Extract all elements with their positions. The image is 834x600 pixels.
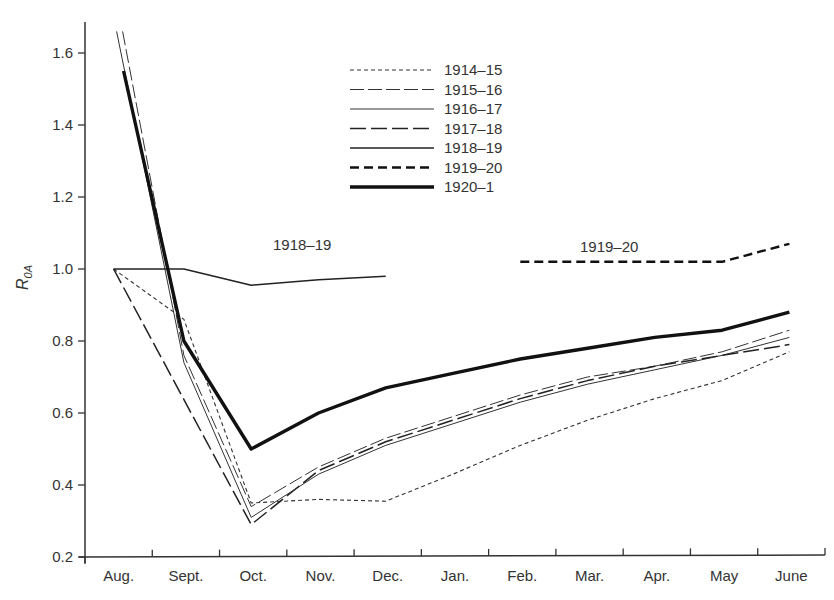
legend-label: 1920–1 [444, 178, 494, 195]
x-axis-line [79, 555, 825, 557]
y-tick-label: 1.0 [52, 260, 73, 277]
legend: 1914–151915–161916–171917–181918–191919–… [350, 61, 502, 195]
x-tick-label: Oct. [239, 567, 267, 584]
series-line-191718 [114, 269, 790, 525]
annotation-191920: 1919–20 [580, 238, 638, 255]
legend-item: 1917–18 [350, 120, 502, 137]
legend-item: 1918–19 [350, 139, 502, 156]
x-tick-label: Nov. [306, 567, 336, 584]
x-tick-label: June [775, 567, 808, 584]
axes: 0.20.40.60.81.01.21.41.6Aug.Sept.Oct.Nov… [52, 22, 825, 584]
x-tick-label: Mar. [575, 567, 604, 584]
legend-item: 1914–15 [350, 61, 502, 78]
y-tick-label: 0.8 [52, 332, 73, 349]
annotation-191819: 1918–19 [273, 236, 331, 253]
series-line-191920 [520, 244, 789, 262]
y-tick-label: 1.6 [52, 44, 73, 61]
legend-label: 1915–16 [444, 81, 502, 98]
legend-label: 1918–19 [444, 139, 502, 156]
x-tick-label: Feb. [507, 567, 537, 584]
legend-label: 1917–18 [444, 120, 502, 137]
y-axis-label: R0A [14, 265, 34, 290]
series-line-191819 [114, 269, 386, 285]
y-axis-label-subscript: 0A [22, 265, 34, 278]
legend-label: 1919–20 [444, 159, 502, 176]
legend-label: 1914–15 [444, 61, 502, 78]
y-tick-label: 0.6 [52, 404, 73, 421]
x-tick-label: Sept. [168, 567, 203, 584]
x-tick-label: Jan. [441, 567, 469, 584]
y-tick-label: 0.2 [52, 548, 73, 565]
x-tick-label: Apr. [643, 567, 670, 584]
x-tick-label: Dec. [372, 567, 403, 584]
legend-item: 1919–20 [350, 159, 502, 176]
y-tick-label: 1.4 [52, 116, 73, 133]
chart: 0.20.40.60.81.01.21.41.6Aug.Sept.Oct.Nov… [0, 0, 834, 600]
series-line-191415 [114, 269, 790, 503]
legend-item: 1915–16 [350, 81, 502, 98]
legend-item: 1920–1 [350, 178, 494, 195]
x-tick-label: Aug. [103, 567, 134, 584]
x-tick-label: May [710, 567, 739, 584]
legend-item: 1916–17 [350, 100, 502, 117]
y-tick-label: 0.4 [52, 476, 73, 493]
legend-label: 1916–17 [444, 100, 502, 117]
y-axis-label-main: R [14, 278, 31, 290]
y-tick-label: 1.2 [52, 188, 73, 205]
annotations: 1918–191919–20 [273, 236, 638, 255]
